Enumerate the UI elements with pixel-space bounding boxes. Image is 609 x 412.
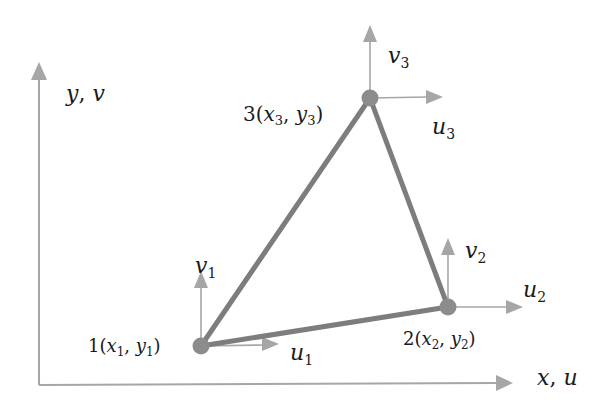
node-2 bbox=[440, 299, 457, 316]
v3-label: v3 bbox=[388, 43, 409, 71]
y-axis-label: y, v bbox=[65, 81, 105, 106]
node-3 bbox=[362, 90, 379, 107]
u2-label: u2 bbox=[523, 277, 546, 305]
u1-arrowhead-icon bbox=[262, 337, 279, 351]
node-2-label: 2(x2, y2) bbox=[403, 328, 476, 352]
y-axis-arrowhead-icon bbox=[31, 62, 47, 80]
u2-arrowhead-icon bbox=[506, 300, 523, 314]
u3-arrow bbox=[370, 97, 428, 98]
triangle-element-diagram: y, v x, u 1(x1, y1) v1 u1 2(x2, y2) v2 u… bbox=[0, 0, 609, 412]
x-axis-label: x, u bbox=[537, 365, 578, 390]
node-1 bbox=[193, 338, 210, 355]
u3-label: u3 bbox=[432, 114, 455, 142]
v3-arrowhead-icon bbox=[363, 25, 377, 42]
dof-arrows bbox=[194, 25, 523, 351]
node-1-label: 1(x1, y1) bbox=[88, 335, 161, 359]
u1-label: u1 bbox=[290, 340, 313, 368]
v2-label: v2 bbox=[465, 238, 486, 266]
v1-label: v1 bbox=[195, 253, 216, 281]
node-3-label: 3(x3, y3) bbox=[243, 102, 323, 128]
x-axis-arrowhead-icon bbox=[496, 375, 513, 391]
u3-arrowhead-icon bbox=[426, 90, 443, 104]
edge-1-3 bbox=[201, 98, 370, 346]
triangle-edges bbox=[201, 98, 448, 346]
v2-arrowhead-icon bbox=[441, 238, 455, 255]
x-axis bbox=[39, 383, 497, 385]
